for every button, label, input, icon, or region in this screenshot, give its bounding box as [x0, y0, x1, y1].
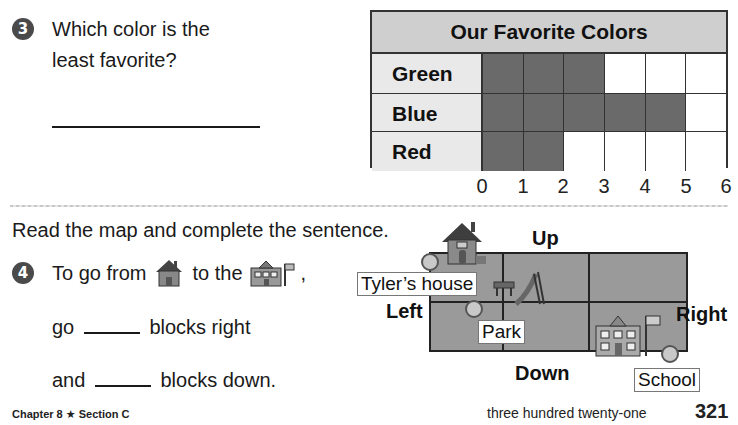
house-icon — [152, 258, 186, 288]
chart-row-blue: Blue — [372, 93, 726, 133]
school-building-icon — [592, 312, 662, 358]
map-instruction: Read the map and complete the sentence. — [12, 215, 389, 245]
direction-down: Down — [515, 362, 569, 385]
row-label: Red — [372, 132, 483, 171]
cell-filled — [483, 132, 524, 171]
x-tick: 5 — [676, 175, 696, 198]
cell-empty — [605, 132, 646, 171]
row-cells — [483, 94, 726, 133]
cell-empty — [686, 94, 726, 133]
tylers-house-icon — [440, 220, 488, 266]
x-tick: 4 — [635, 175, 655, 198]
cell-empty — [646, 54, 687, 93]
chart-row-red: Red — [372, 131, 726, 171]
tylers-house-label: Tyler’s house — [357, 272, 477, 296]
question-4-line-2: go blocks right — [52, 312, 251, 342]
row-label: Green — [372, 54, 483, 93]
and-label: and — [52, 369, 85, 391]
cell-filled — [524, 54, 565, 93]
cell-filled — [524, 94, 565, 133]
x-tick: 6 — [716, 175, 736, 198]
question-4-text: , — [301, 258, 307, 288]
blocks-down-label: blocks down. — [161, 369, 277, 391]
school-location-pin — [661, 345, 679, 363]
section-divider — [10, 205, 728, 207]
question-3-line-1: Which color is the — [52, 14, 210, 44]
park-bench-slide-icon — [492, 268, 552, 308]
park-location-pin — [465, 300, 483, 318]
direction-up: Up — [532, 227, 559, 250]
park-label: Park — [478, 320, 525, 344]
question-4-text: To go from — [52, 258, 146, 288]
x-tick: 3 — [594, 175, 614, 198]
question-4-text: to the — [192, 258, 242, 288]
house-location-pin — [421, 253, 439, 271]
cell-filled — [564, 94, 605, 133]
question-number-badge: 4 — [12, 262, 34, 284]
page-number-words: three hundred twenty-one — [487, 405, 647, 421]
cell-filled — [483, 54, 524, 93]
page-number: 321 — [695, 400, 728, 423]
x-tick: 0 — [472, 175, 492, 198]
direction-right: Right — [676, 303, 727, 326]
cell-empty — [646, 132, 687, 171]
question-4-line-1: To go from to the , — [52, 258, 306, 288]
row-cells — [483, 54, 726, 93]
direction-left: Left — [386, 300, 423, 323]
chapter-section-label: Chapter 8 ★ Section C — [12, 408, 129, 421]
blocks-right-label: blocks right — [149, 316, 250, 338]
x-tick: 1 — [513, 175, 533, 198]
x-tick: 2 — [553, 175, 573, 198]
cell-filled — [524, 132, 565, 171]
cell-filled — [646, 94, 687, 133]
blocks-right-answer-blank[interactable] — [84, 332, 140, 334]
school-icon — [249, 258, 295, 288]
cell-filled — [564, 54, 605, 93]
question-4-line-3: and blocks down. — [52, 365, 276, 395]
cell-filled — [483, 94, 524, 133]
question-number-badge: 3 — [12, 18, 34, 40]
cell-filled — [605, 94, 646, 133]
chart-row-green: Green — [372, 54, 726, 93]
row-label: Blue — [372, 94, 483, 133]
go-label: go — [52, 316, 74, 338]
blocks-down-answer-blank[interactable] — [95, 385, 151, 387]
cell-empty — [605, 54, 646, 93]
question-3-line-2: least favorite? — [52, 45, 177, 75]
school-label: School — [634, 368, 700, 392]
chart-title: Our Favorite Colors — [372, 12, 726, 54]
question-3-answer-line[interactable] — [52, 126, 260, 128]
favorite-colors-chart: Our Favorite Colors Green Blue Red — [370, 10, 728, 168]
cell-empty — [564, 132, 605, 171]
cell-empty — [686, 54, 726, 93]
row-cells — [483, 132, 726, 171]
cell-empty — [686, 132, 726, 171]
